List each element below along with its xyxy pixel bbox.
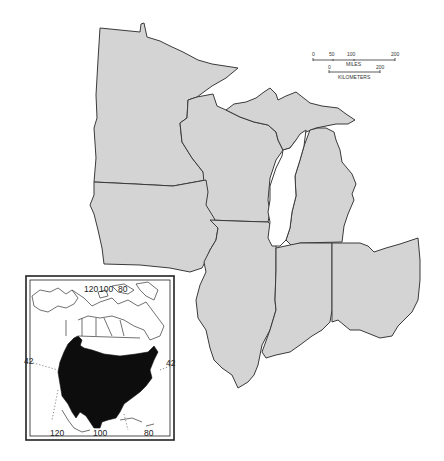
scale-miles-50: 50 bbox=[329, 51, 335, 57]
inset-north-america: 120 100 80 42 42 120 100 80 bbox=[24, 276, 176, 440]
inset-top-lon-100: 100 bbox=[99, 284, 113, 294]
inset-left-lat-42: 42 bbox=[24, 356, 34, 366]
midwest-map: 0 50 100 200 MILES 0 200 KILOMETERS bbox=[0, 0, 444, 461]
state-iowa bbox=[90, 180, 218, 272]
inset-bottom-lon-100: 100 bbox=[93, 428, 107, 438]
scale-miles-0: 0 bbox=[312, 51, 315, 57]
inset-bottom-lon-80: 80 bbox=[144, 428, 154, 438]
inset-bottom-lon-120: 120 bbox=[50, 428, 64, 438]
inset-top-lon-80: 80 bbox=[118, 284, 128, 294]
inset-right-lat-42: 42 bbox=[166, 358, 176, 368]
inset-top-lon-120: 120 bbox=[84, 284, 98, 294]
state-ohio bbox=[332, 238, 420, 338]
scale-miles-200: 200 bbox=[391, 51, 400, 57]
scale-miles-100: 100 bbox=[347, 51, 356, 57]
scale-bar: 0 50 100 200 MILES 0 200 KILOMETERS bbox=[312, 51, 400, 80]
scale-km-label: KILOMETERS bbox=[338, 74, 371, 80]
scale-km-200: 200 bbox=[376, 64, 385, 70]
scale-km-0: 0 bbox=[328, 64, 331, 70]
scale-miles-label: MILES bbox=[346, 61, 362, 67]
